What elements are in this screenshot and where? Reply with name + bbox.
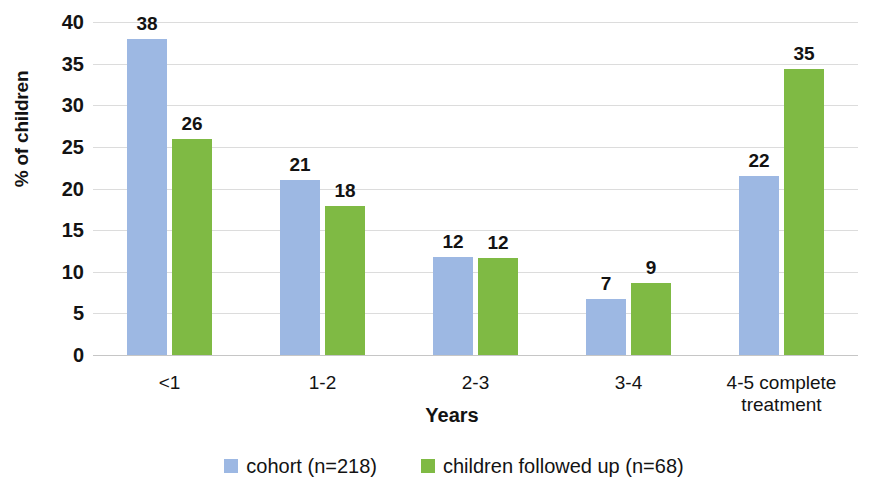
bar-cohort[interactable] bbox=[127, 39, 167, 355]
x-axis-category-label: <1 bbox=[90, 372, 250, 394]
category-label-line: 1-2 bbox=[243, 372, 403, 394]
bar-followed-up[interactable] bbox=[325, 206, 365, 355]
legend-label: children followed up (n=68) bbox=[443, 456, 684, 476]
bar-cohort[interactable] bbox=[586, 299, 626, 355]
legend-swatch-icon bbox=[421, 459, 435, 473]
bar-followed-up[interactable] bbox=[172, 139, 212, 355]
bar-value-label: 18 bbox=[313, 181, 377, 200]
bar-value-label: 9 bbox=[619, 258, 683, 277]
bar-cohort[interactable] bbox=[433, 257, 473, 355]
y-axis-tick-label: 35 bbox=[40, 54, 84, 74]
bar-value-label: 38 bbox=[115, 14, 179, 33]
x-axis-category-label: 2-3 bbox=[396, 372, 556, 394]
y-axis-tick-label: 25 bbox=[40, 137, 84, 157]
bar-followed-up[interactable] bbox=[784, 69, 824, 355]
bar-value-label: 7 bbox=[574, 274, 638, 293]
plot-area: 382621181212792235 bbox=[93, 22, 858, 355]
bar-cohort[interactable] bbox=[280, 180, 320, 355]
category-label-line: <1 bbox=[90, 372, 250, 394]
y-axis-tick-label: 15 bbox=[40, 220, 84, 240]
y-axis-tick-label: 20 bbox=[40, 179, 84, 199]
y-axis-title: % of children bbox=[11, 49, 33, 209]
y-axis-tick-label: 5 bbox=[40, 303, 84, 323]
category-label-line: 4-5 complete bbox=[702, 372, 862, 394]
bar-value-label: 35 bbox=[772, 44, 836, 63]
legend-label: cohort (n=218) bbox=[246, 456, 377, 476]
chart-legend: cohort (n=218)children followed up (n=68… bbox=[0, 456, 874, 476]
category-label-line: 2-3 bbox=[396, 372, 556, 394]
gridline bbox=[93, 105, 858, 106]
y-axis-tick-labels: 0510152025303540 bbox=[36, 22, 84, 355]
bar-followed-up[interactable] bbox=[631, 283, 671, 355]
y-axis-tick-label: 10 bbox=[40, 262, 84, 282]
bar-cohort[interactable] bbox=[739, 176, 779, 355]
gridline bbox=[93, 22, 858, 23]
y-axis-tick-label: 0 bbox=[40, 345, 84, 365]
legend-item[interactable]: children followed up (n=68) bbox=[421, 456, 684, 476]
category-label-line: 3-4 bbox=[549, 372, 709, 394]
bar-chart: % of children 0510152025303540 382621181… bbox=[0, 0, 874, 485]
bar-followed-up[interactable] bbox=[478, 258, 518, 355]
gridline bbox=[93, 64, 858, 65]
y-axis-tick-label: 30 bbox=[40, 95, 84, 115]
bar-value-label: 21 bbox=[268, 155, 332, 174]
x-axis-category-label: 3-4 bbox=[549, 372, 709, 394]
y-axis-tick-label: 40 bbox=[40, 12, 84, 32]
x-axis-title: Years bbox=[0, 404, 874, 427]
bar-value-label: 26 bbox=[160, 114, 224, 133]
legend-item[interactable]: cohort (n=218) bbox=[224, 456, 377, 476]
x-axis-category-label: 1-2 bbox=[243, 372, 403, 394]
bar-value-label: 12 bbox=[466, 233, 530, 252]
legend-swatch-icon bbox=[224, 459, 238, 473]
bar-value-label: 22 bbox=[727, 151, 791, 170]
gridline bbox=[93, 355, 858, 356]
